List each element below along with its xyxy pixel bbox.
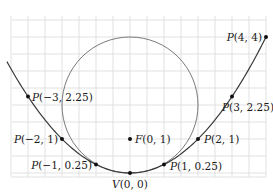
point-label: P(4, 4) bbox=[226, 31, 262, 43]
point-p-neg1-0.25: P(−1, 0.25) bbox=[30, 159, 98, 171]
point-label: P(−1, 0.25) bbox=[30, 159, 92, 171]
point-dot bbox=[26, 95, 30, 99]
point-dot bbox=[60, 137, 64, 141]
point-label: V(0, 0) bbox=[112, 178, 148, 190]
point-dot bbox=[162, 163, 166, 167]
point-p-1-0.25: P(1, 0.25) bbox=[162, 160, 222, 172]
parabola-diagram: P(4, 4)P(3, 2.25)P(2, 1)P(1, 0.25)V(0, 0… bbox=[0, 0, 273, 192]
point-dot bbox=[128, 171, 132, 175]
point-label: P(2, 1) bbox=[203, 133, 239, 145]
point-dot bbox=[230, 95, 234, 99]
point-dot bbox=[196, 137, 200, 141]
point-p-neg2-1: P(−2, 1) bbox=[13, 133, 64, 145]
labeled-points: P(4, 4)P(3, 2.25)P(2, 1)P(1, 0.25)V(0, 0… bbox=[13, 31, 273, 190]
point-label: P(3, 2.25) bbox=[221, 101, 273, 113]
point-label: F(0, 1) bbox=[134, 133, 171, 145]
point-label: P(1, 0.25) bbox=[169, 160, 222, 172]
point-p-4-4: P(4, 4) bbox=[226, 31, 268, 43]
point-label: P(−2, 1) bbox=[13, 133, 58, 145]
point-p-3-2.25: P(3, 2.25) bbox=[221, 95, 273, 113]
point-dot bbox=[94, 163, 98, 167]
point-v-0-0: V(0, 0) bbox=[112, 171, 148, 190]
point-dot bbox=[128, 137, 132, 141]
point-f-0-1: F(0, 1) bbox=[128, 133, 171, 145]
point-p-neg3-2.25: P(−3, 2.25) bbox=[26, 91, 93, 103]
point-dot bbox=[264, 35, 268, 39]
point-label: P(−3, 2.25) bbox=[31, 91, 93, 103]
